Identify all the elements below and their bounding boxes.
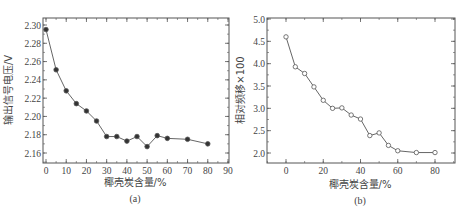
y-tick-label: 4.5 <box>253 37 265 47</box>
data-point-marker <box>330 106 334 110</box>
data-point-marker <box>155 133 160 138</box>
x-tick-label: 20 <box>319 166 329 176</box>
data-point-marker <box>312 85 316 89</box>
y-tick-label: 2.18 <box>24 130 41 140</box>
y-tick-label: 5.0 <box>253 15 265 25</box>
y-tick-label: 4.0 <box>253 59 265 69</box>
data-point-marker <box>74 101 79 106</box>
y-tick-label: 3.5 <box>253 82 265 92</box>
y-axis-title-b: 相对频移×100 <box>234 56 246 123</box>
data-point-marker <box>135 134 140 139</box>
plot-frame-a <box>43 18 229 163</box>
series-a <box>44 27 210 149</box>
data-point-marker <box>302 71 306 75</box>
data-point-marker <box>125 139 130 144</box>
data-point-marker <box>414 150 418 154</box>
data-point-marker <box>433 150 437 154</box>
caption-a: (a) <box>129 193 140 205</box>
x-tick-label: 80 <box>430 166 440 176</box>
x-tick-label: 40 <box>356 166 366 176</box>
x-tick-label: 40 <box>122 166 132 176</box>
x-tick-label: 50 <box>142 166 152 176</box>
figure: 2.162.182.202.222.242.262.282.30 0102030… <box>0 0 459 217</box>
y-tick-label: 2.0 <box>253 149 265 159</box>
data-point-marker <box>349 113 353 117</box>
x-tick-label: 10 <box>61 166 71 176</box>
data-point-marker <box>104 134 109 139</box>
data-point-marker <box>165 136 170 141</box>
data-point-marker <box>205 142 210 147</box>
data-point-marker <box>145 144 150 149</box>
data-point-marker <box>321 98 325 102</box>
chart-a-output-voltage: 2.162.182.202.222.242.262.282.30 0102030… <box>2 18 233 205</box>
y-axis-b: 2.02.53.03.54.04.55.0 <box>253 15 455 159</box>
data-line <box>286 37 435 153</box>
x-tick-label: 70 <box>183 166 193 176</box>
x-axis-title-b: 椰壳炭含量/% <box>329 178 392 190</box>
data-point-marker <box>44 27 49 32</box>
data-point-marker <box>340 106 344 110</box>
data-point-marker <box>114 134 119 139</box>
data-point-marker <box>64 89 69 94</box>
y-tick-label: 2.20 <box>24 112 41 122</box>
plot-frame-b <box>267 18 455 163</box>
y-tick-label: 2.22 <box>24 94 41 104</box>
y-tick-label: 2.5 <box>253 126 265 136</box>
x-tick-label: 0 <box>284 166 289 176</box>
y-tick-label: 2.26 <box>24 57 41 67</box>
y-tick-label: 2.28 <box>24 39 41 49</box>
y-tick-label: 2.16 <box>24 149 41 159</box>
data-point-marker <box>293 65 297 69</box>
data-point-marker <box>84 109 89 114</box>
y-tick-label: 2.24 <box>24 75 41 85</box>
data-point-marker <box>284 35 288 39</box>
data-point-marker <box>185 137 190 142</box>
y-tick-label: 2.30 <box>24 21 41 31</box>
chart-b-relative-frequency-shift: 2.02.53.03.54.04.55.0 020406080 相对频移×100… <box>234 15 455 208</box>
data-point-marker <box>54 68 59 73</box>
x-tick-label: 30 <box>102 166 112 176</box>
data-line <box>46 30 208 147</box>
data-point-marker <box>358 117 362 121</box>
x-axis-a: 0102030405060708090 <box>44 18 233 176</box>
data-point-marker <box>377 131 381 135</box>
x-tick-label: 20 <box>82 166 92 176</box>
x-tick-label: 90 <box>223 166 233 176</box>
x-tick-label: 60 <box>163 166 173 176</box>
x-tick-label: 60 <box>393 166 403 176</box>
caption-b: (b) <box>354 195 366 207</box>
x-axis-title-a: 椰壳炭含量/% <box>104 176 167 188</box>
data-point-marker <box>94 119 99 124</box>
x-tick-label: 0 <box>44 166 49 176</box>
data-point-marker <box>368 133 372 137</box>
y-axis-title-a: 输出信号电压/V <box>2 55 14 125</box>
data-point-marker <box>386 143 390 147</box>
y-tick-label: 3.0 <box>253 104 265 114</box>
series-b <box>284 35 437 155</box>
data-point-marker <box>396 149 400 153</box>
x-tick-label: 80 <box>203 166 213 176</box>
